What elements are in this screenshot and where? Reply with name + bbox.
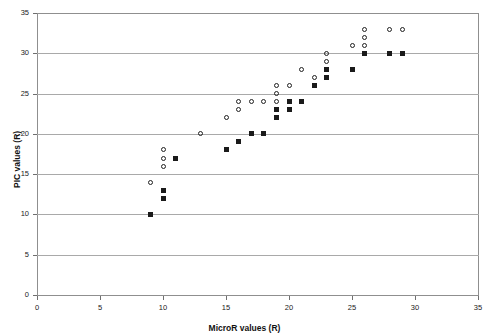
- y-tick-mark: [33, 255, 37, 256]
- data-point-open-circle: [362, 35, 367, 40]
- data-point-filled-square: [148, 212, 153, 217]
- gridline: [37, 174, 479, 175]
- y-tick-label: 10: [7, 210, 29, 218]
- y-tick-mark: [33, 53, 37, 54]
- data-point-filled-square: [350, 67, 355, 72]
- data-point-open-circle: [400, 27, 405, 32]
- y-tick-label: 35: [7, 9, 29, 17]
- data-point-filled-square: [274, 115, 279, 120]
- data-point-filled-square: [224, 147, 229, 152]
- data-point-filled-square: [324, 75, 329, 80]
- data-point-filled-square: [261, 131, 266, 136]
- data-point-open-circle: [312, 75, 317, 80]
- x-tick-mark: [415, 296, 416, 300]
- x-tick-label: 5: [88, 304, 112, 312]
- gridline: [37, 134, 479, 135]
- data-point-filled-square: [274, 107, 279, 112]
- x-tick-label: 30: [403, 304, 427, 312]
- y-tick-label: 25: [7, 90, 29, 98]
- data-point-open-circle: [274, 83, 279, 88]
- data-point-filled-square: [173, 156, 178, 161]
- data-point-open-circle: [387, 27, 392, 32]
- data-point-filled-square: [161, 188, 166, 193]
- data-point-open-circle: [299, 67, 304, 72]
- y-tick-label: 5: [7, 251, 29, 259]
- x-axis-title: MicroR values (R): [0, 323, 489, 333]
- x-tick-label: 20: [277, 304, 301, 312]
- y-tick-mark: [33, 174, 37, 175]
- scatter-chart: 05101520253035 05101520253035 MicroR val…: [0, 0, 489, 336]
- plot-area: [37, 13, 479, 296]
- data-point-open-circle: [148, 180, 153, 185]
- x-tick-mark: [289, 296, 290, 300]
- data-point-filled-square: [236, 139, 241, 144]
- gridline: [37, 255, 479, 256]
- x-tick-mark: [37, 296, 38, 300]
- x-tick-label: 25: [340, 304, 364, 312]
- data-point-open-circle: [350, 43, 355, 48]
- x-tick-mark: [100, 296, 101, 300]
- data-point-open-circle: [274, 99, 279, 104]
- data-point-filled-square: [161, 196, 166, 201]
- data-point-filled-square: [362, 51, 367, 56]
- data-point-filled-square: [400, 51, 405, 56]
- x-tick-mark: [478, 296, 479, 300]
- gridline: [37, 94, 479, 95]
- gridline: [37, 214, 479, 215]
- data-point-open-circle: [249, 99, 254, 104]
- data-point-open-circle: [362, 27, 367, 32]
- x-tick-label: 35: [466, 304, 489, 312]
- data-point-filled-square: [324, 67, 329, 72]
- x-tick-label: 0: [25, 304, 49, 312]
- x-tick-label: 10: [151, 304, 175, 312]
- y-tick-mark: [33, 94, 37, 95]
- y-axis-title: PIC values (R): [12, 131, 22, 188]
- data-point-open-circle: [274, 91, 279, 96]
- y-tick-mark: [33, 134, 37, 135]
- data-point-filled-square: [387, 51, 392, 56]
- x-tick-label: 15: [214, 304, 238, 312]
- y-tick-label: 0: [7, 291, 29, 299]
- y-tick-mark: [33, 13, 37, 14]
- data-point-open-circle: [161, 164, 166, 169]
- x-tick-mark: [226, 296, 227, 300]
- data-point-filled-square: [287, 107, 292, 112]
- data-point-open-circle: [161, 156, 166, 161]
- data-point-filled-square: [287, 99, 292, 104]
- data-point-open-circle: [224, 115, 229, 120]
- y-tick-mark: [33, 214, 37, 215]
- x-tick-mark: [163, 296, 164, 300]
- y-tick-label: 30: [7, 49, 29, 57]
- x-tick-mark: [352, 296, 353, 300]
- data-point-filled-square: [312, 83, 317, 88]
- gridline: [37, 53, 479, 54]
- data-point-open-circle: [362, 43, 367, 48]
- data-point-filled-square: [299, 99, 304, 104]
- data-point-filled-square: [249, 131, 254, 136]
- data-point-open-circle: [287, 83, 292, 88]
